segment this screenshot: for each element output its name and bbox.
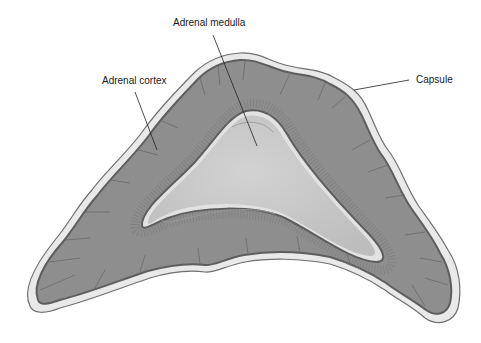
label-adrenal-medulla: Adrenal medulla bbox=[173, 17, 245, 28]
adrenal-gland-diagram bbox=[0, 0, 481, 343]
capsule-leader-line bbox=[354, 80, 409, 90]
label-adrenal-cortex: Adrenal cortex bbox=[102, 75, 166, 86]
label-capsule: Capsule bbox=[416, 74, 453, 85]
